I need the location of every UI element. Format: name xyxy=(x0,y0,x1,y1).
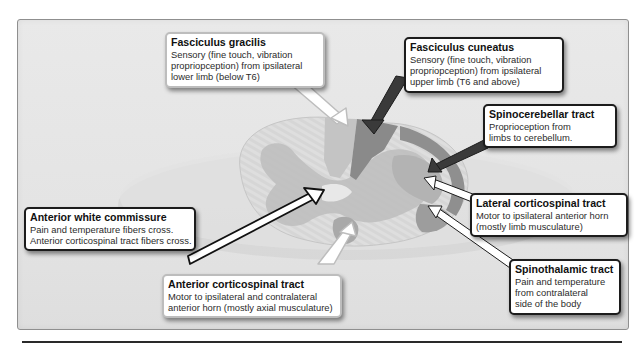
callout-text: lower limb (below T6) xyxy=(171,71,319,82)
bottom-separator-line xyxy=(22,341,622,343)
callout-fasciculus-gracilis: Fasciculus gracilis Sensory (fine touch,… xyxy=(165,32,325,88)
callout-text: from contralateral xyxy=(515,287,615,298)
callout-text: (mostly limb musculature) xyxy=(476,221,622,232)
callout-spinothalamic-tract: Spinothalamic tract Pain and temperature… xyxy=(509,259,621,315)
callout-text: propriopception) from ipsilateral xyxy=(410,65,558,76)
callout-title: Spinocerebellar tract xyxy=(489,108,611,121)
callout-text: Pain and temperature fibers cross. xyxy=(30,224,190,235)
callout-lateral-corticospinal-tract: Lateral corticospinal tract Motor to ips… xyxy=(470,193,628,237)
callout-anterior-corticospinal-tract: Anterior corticospinal tract Motor to ip… xyxy=(162,274,342,318)
callout-title: Fasciculus cuneatus xyxy=(410,41,558,54)
callout-text: limbs to cerebellum. xyxy=(489,132,611,143)
callout-spinocerebellar-tract: Spinocerebellar tract Proprioception fro… xyxy=(483,104,617,148)
callout-text: upper limb (T6 and above) xyxy=(410,76,558,87)
callout-text: Pain and temperature xyxy=(515,276,615,287)
callout-title: Spinothalamic tract xyxy=(515,263,615,276)
callout-fasciculus-cuneatus: Fasciculus cuneatus Sensory (fine touch,… xyxy=(404,37,564,93)
callout-text: side of the body xyxy=(515,298,615,309)
callout-title: Fasciculus gracilis xyxy=(171,36,319,49)
callout-text: Proprioception from xyxy=(489,121,611,132)
callout-anterior-white-commissure: Anterior white commissure Pain and tempe… xyxy=(24,207,196,251)
callout-text: Sensory (fine touch, vibration xyxy=(171,49,319,60)
callout-title: Lateral corticospinal tract xyxy=(476,197,622,210)
callout-text: propriopception) from ipsilateral xyxy=(171,60,319,71)
callout-title: Anterior white commissure xyxy=(30,211,190,224)
callout-text: Anterior corticospinal tract fibers cros… xyxy=(30,235,190,246)
callout-text: Sensory (fine touch, vibration xyxy=(410,54,558,65)
callout-text: Motor to ipsilateral anterior horn xyxy=(476,210,622,221)
callout-text: Motor to ipsilateral and contralateral xyxy=(168,291,336,302)
callout-text: anterior horn (mostly axial musculature) xyxy=(168,302,336,313)
callout-title: Anterior corticospinal tract xyxy=(168,278,336,291)
